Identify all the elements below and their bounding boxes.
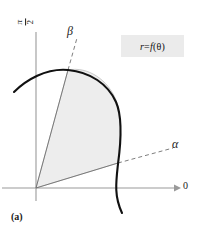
- polar-area-figure: π 2 β α 0 r=f(θ) (a): [0, 0, 200, 234]
- equation-close-paren: ): [161, 41, 165, 52]
- ray-beta-dashed: [68, 38, 77, 70]
- horizontal-axis-arrowhead: [174, 185, 181, 192]
- fraction-pi-over-two: π 2: [15, 19, 35, 26]
- equation-text: r=f(θ): [140, 41, 165, 52]
- equation-callout-box: r=f(θ): [121, 35, 184, 57]
- ray-label-alpha: α: [172, 138, 178, 150]
- figure-caption: (a): [11, 212, 23, 222]
- axis-label-zero: 0: [183, 181, 188, 191]
- fraction-numerator: π: [15, 19, 24, 26]
- ray-alpha-dashed: [118, 148, 173, 163]
- axis-label-pi-over-two: π 2: [15, 19, 35, 26]
- ray-label-beta: β: [67, 25, 73, 37]
- shaded-region: [36, 69, 120, 188]
- fraction-denominator: 2: [26, 19, 35, 26]
